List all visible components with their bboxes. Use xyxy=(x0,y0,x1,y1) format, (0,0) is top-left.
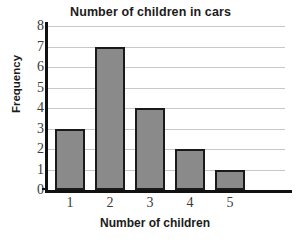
y-tick-label: 4 xyxy=(28,101,44,115)
bar-chart-figure: Number of children in cars Frequency 012… xyxy=(0,0,301,242)
y-tick-label: 2 xyxy=(28,142,44,156)
y-axis-tick-labels: 012345678 xyxy=(10,0,44,242)
x-tick-label: 4 xyxy=(175,196,205,210)
bar xyxy=(95,47,125,191)
gridline xyxy=(48,67,285,68)
y-tick-label: 1 xyxy=(28,163,44,177)
bar xyxy=(175,149,205,190)
y-tick-label: 0 xyxy=(28,183,44,197)
plot-area xyxy=(48,26,285,190)
gridline xyxy=(48,108,285,109)
x-tick-label: 1 xyxy=(55,196,85,210)
gridline xyxy=(48,47,285,48)
bar xyxy=(55,129,85,191)
x-tick-label: 5 xyxy=(215,196,245,210)
x-axis-label: Number of children xyxy=(40,216,270,230)
y-tick-label: 8 xyxy=(28,19,44,33)
bar xyxy=(215,170,245,191)
x-axis-line xyxy=(45,190,292,193)
y-tick-label: 6 xyxy=(28,60,44,74)
chart-title: Number of children in cars xyxy=(0,5,301,19)
y-axis-line xyxy=(45,22,48,192)
y-tick-label: 5 xyxy=(28,81,44,95)
gridline xyxy=(48,88,285,89)
x-tick-label: 2 xyxy=(95,196,125,210)
bar xyxy=(135,108,165,190)
y-tick-label: 7 xyxy=(28,40,44,54)
x-axis-origin-tick xyxy=(42,188,48,190)
gridline xyxy=(48,26,285,27)
y-tick-label: 3 xyxy=(28,122,44,136)
x-tick-label: 3 xyxy=(135,196,165,210)
